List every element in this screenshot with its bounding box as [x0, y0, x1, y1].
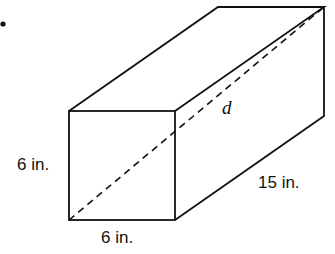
side-face [175, 7, 324, 220]
height-label: 6 in. [17, 156, 49, 173]
width-label: 6 in. [101, 229, 133, 246]
bullet-dot [0, 21, 5, 26]
diagonal-label: d [222, 98, 232, 117]
prism-drawing [0, 0, 335, 254]
length-label: 15 in. [258, 174, 300, 191]
top-face [69, 7, 324, 111]
prism-diagram: d 6 in. 6 in. 15 in. [0, 0, 335, 254]
front-face [69, 111, 175, 220]
